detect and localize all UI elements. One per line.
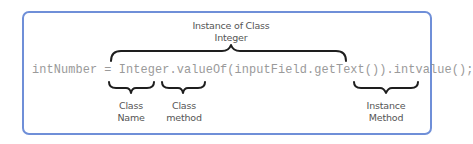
brace-class-method	[162, 82, 205, 93]
annotation-class-method: Class method	[160, 100, 208, 124]
annotation-line: Class	[160, 100, 208, 112]
annotation-line: Class	[111, 100, 151, 112]
brace-instance-method	[354, 82, 418, 93]
annotation-line: Name	[111, 112, 151, 124]
code-line: intNumber = Integer.valueOf(inputField.g…	[32, 63, 473, 77]
brace-instance-of-class	[111, 45, 346, 61]
annotation-instance-method: Instance Method	[360, 100, 412, 124]
annotation-line: method	[160, 112, 208, 124]
annotation-line: Method	[360, 112, 412, 124]
annotation-line: Instance	[360, 100, 412, 112]
annotation-class-name: Class Name	[111, 100, 151, 124]
brace-class-name	[109, 82, 154, 93]
